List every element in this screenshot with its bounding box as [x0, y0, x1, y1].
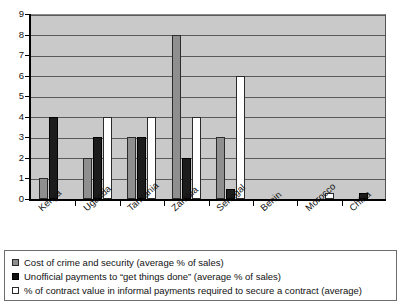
y-axis-tick-labels: 0123456789	[2, 0, 24, 245]
black-swatch-icon	[12, 273, 19, 280]
legend-item-label: Unofficial payments to “get things done”…	[24, 271, 281, 282]
plot-area: 0123456789 KenyaUgandaTanzaniaZambiaSene…	[0, 0, 401, 245]
y-axis-tick-label: 3	[4, 133, 24, 143]
bar	[172, 35, 181, 199]
legend-item: Cost of crime and security (average % of…	[12, 255, 391, 269]
bar	[83, 158, 92, 199]
legend-item: Unofficial payments to “get things done”…	[12, 269, 391, 283]
y-axis-tick-label: 1	[4, 174, 24, 184]
bar	[216, 137, 225, 199]
legend-item: % of contract value in informal payments…	[12, 283, 391, 297]
y-axis-tick-label: 0	[4, 194, 24, 204]
legend-item-label: Cost of crime and security (average % of…	[24, 257, 224, 268]
legend-item-label: % of contract value in informal payments…	[24, 285, 362, 296]
y-axis-tick-label: 2	[4, 153, 24, 163]
x-axis-category-labels: KenyaUgandaTanzaniaZambiaSenegalBeninMor…	[31, 203, 386, 245]
y-axis-tick-label: 8	[4, 30, 24, 40]
y-axis-tick-label: 9	[4, 9, 24, 19]
y-axis-tick-label: 6	[4, 71, 24, 81]
y-axis-tick-label: 7	[4, 50, 24, 60]
chart-legend: Cost of crime and security (average % of…	[4, 250, 397, 301]
y-axis-tick-label: 4	[4, 112, 24, 122]
bar-chart-figure: 0123456789 KenyaUgandaTanzaniaZambiaSene…	[0, 0, 401, 305]
bar	[127, 137, 136, 199]
white-swatch-icon	[12, 287, 19, 294]
gray-swatch-icon	[12, 259, 19, 266]
bar-series-container	[31, 14, 386, 199]
y-axis-tick-label: 5	[4, 91, 24, 101]
bar	[236, 76, 245, 199]
